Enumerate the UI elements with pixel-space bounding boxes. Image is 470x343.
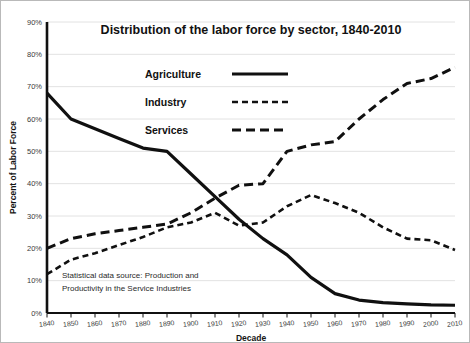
x-axis-tick-label: 1970 (351, 319, 367, 328)
y-axis-tick-label: 40% (27, 179, 42, 188)
labor-force-line-chart: 0%10%20%30%40%50%60%70%80%90%18401850186… (0, 0, 470, 343)
y-axis-tick-label: 80% (27, 50, 42, 59)
chart-container: 0%10%20%30%40%50%60%70%80%90%18401850186… (0, 0, 470, 343)
x-axis-tick-label: 1880 (135, 319, 151, 328)
x-axis-tick-label: 1950 (303, 319, 319, 328)
x-axis-tick-label: 1910 (207, 319, 223, 328)
x-axis-tick-label: 1930 (255, 319, 271, 328)
source-annotation-line: Statistical data source: Production and (62, 271, 199, 280)
x-axis-tick-label: 1870 (111, 319, 127, 328)
x-axis-title: Decade (236, 333, 267, 343)
series-line-services (47, 67, 455, 248)
y-axis-tick-label: 50% (27, 147, 42, 156)
y-axis-tick-label: 70% (27, 82, 42, 91)
x-axis-tick-label: 1920 (231, 319, 247, 328)
y-axis-tick-label: 10% (27, 276, 42, 285)
y-axis-tick-label: 0% (31, 309, 42, 318)
y-axis-tick-label: 20% (27, 244, 42, 253)
x-axis-tick-label: 1900 (183, 319, 199, 328)
y-axis-tick-label: 60% (27, 115, 42, 124)
x-axis-tick-label: 2000 (423, 319, 439, 328)
x-axis-tick-label: 1940 (279, 319, 295, 328)
source-annotation-line: Productivity in the Service Industries (62, 284, 191, 293)
y-axis-title: Percent of Labor Force (8, 121, 18, 214)
series-line-industry (47, 195, 455, 274)
x-axis-tick-label: 1840 (39, 319, 55, 328)
legend-label-agriculture: Agriculture (145, 68, 201, 80)
x-axis-tick-label: 1980 (375, 319, 391, 328)
x-axis-tick-label: 2010 (447, 319, 463, 328)
y-axis-tick-label: 90% (27, 18, 42, 27)
x-axis-tick-label: 1860 (87, 319, 103, 328)
x-axis-tick-label: 1960 (327, 319, 343, 328)
legend-label-industry: Industry (145, 96, 187, 108)
x-axis-tick-label: 1850 (63, 319, 79, 328)
chart-title: Distribution of the labor force by secto… (101, 23, 402, 37)
legend-label-services: Services (145, 124, 188, 136)
y-axis-tick-label: 30% (27, 212, 42, 221)
x-axis-tick-label: 1890 (159, 319, 175, 328)
x-axis-tick-label: 1990 (399, 319, 415, 328)
